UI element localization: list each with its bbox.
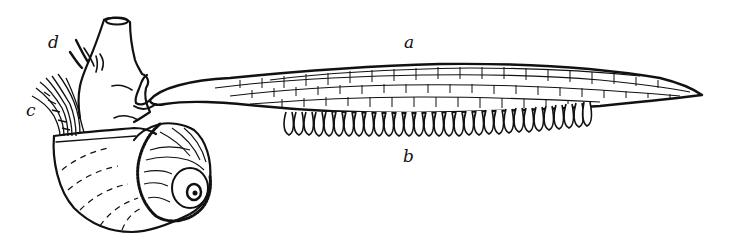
snail-body [70, 18, 150, 123]
snail-egg-raft-illustration: a b c d [0, 0, 729, 247]
label-d: d [48, 34, 59, 51]
label-a: a [404, 34, 414, 51]
label-c: c [26, 102, 36, 119]
illustration-drawing [0, 0, 729, 247]
egg-capsules [284, 102, 592, 136]
label-b: b [403, 148, 414, 165]
snail-shell [54, 123, 211, 232]
float-raft [134, 64, 702, 113]
gill-tentacles [32, 74, 84, 136]
